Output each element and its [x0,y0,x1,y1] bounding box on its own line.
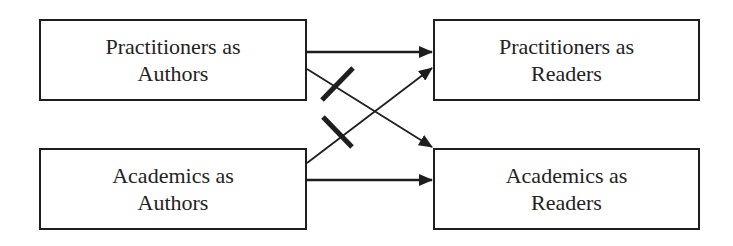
edge-pa-to-ar-arrow [307,69,432,147]
edge-aa-to-pr-arrow [307,68,432,163]
edges-layer [0,0,733,246]
